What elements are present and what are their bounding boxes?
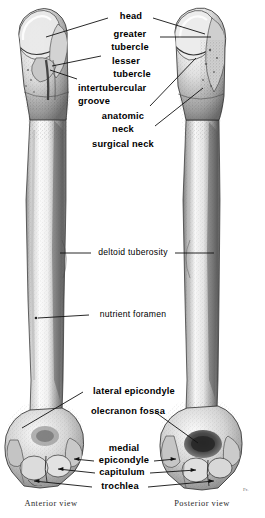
caption-anterior-view: Anterior view [24,500,77,509]
caption-posterior-view: Posterior view [174,500,230,509]
label-capitulum: capitulum [99,468,145,477]
label-surgical-neck: surgical neck [92,140,154,149]
humerus-figure: head greater tubercle lesser tubercle in… [0,0,265,518]
label-greater-tubercle-line2: tubercle [111,43,149,52]
label-lesser-tubercle-line1: lesser [112,57,140,66]
label-olecranon-fossa: olecranon fossa [91,407,165,416]
humerus-posterior [155,4,250,493]
label-anatomic-neck-line1: anatomic [102,112,144,121]
label-lesser-tubercle-line2: tubercle [113,70,151,79]
label-lateral-epicondyle: lateral epicondyle [93,387,175,396]
label-intertubercular-groove-line1: intertubercular [78,84,146,93]
humerus-anterior [0,5,95,493]
label-trochlea: trochlea [101,482,139,491]
label-anatomic-neck-line2: neck [112,125,134,134]
label-head: head [120,12,142,21]
label-greater-tubercle-line1: greater [114,30,147,39]
label-medial-epicondyle-line2: epicondyle [99,456,149,465]
label-intertubercular-groove-line2: groove [78,97,110,106]
label-nutrient-foramen: nutrient foramen [100,310,167,319]
artist-signature: Fr. [243,487,248,492]
label-deltoid-tuberosity: deltoid tuberosity [98,248,167,257]
label-medial-epicondyle-line1: medial [109,444,140,453]
